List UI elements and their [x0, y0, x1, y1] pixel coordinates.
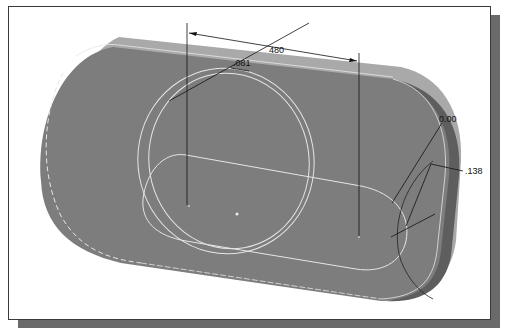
arrow-right-icon: [349, 58, 357, 62]
arrow-left-icon: [189, 32, 197, 36]
point-right[interactable]: [358, 236, 360, 238]
part-front-face[interactable]: [40, 47, 451, 301]
dimension-138-label[interactable]: .138: [465, 166, 483, 176]
dimension-480-label[interactable]: 480: [269, 45, 284, 55]
point-left[interactable]: [188, 205, 190, 207]
dimension-081-label[interactable]: .081: [233, 58, 251, 68]
graphics-viewport[interactable]: 480 .081 0.00 .138: [8, 6, 491, 320]
dimension-000-label[interactable]: 0.00: [439, 114, 457, 124]
model-canvas[interactable]: 480 .081 0.00 .138: [9, 7, 491, 320]
center-point[interactable]: [236, 213, 239, 216]
